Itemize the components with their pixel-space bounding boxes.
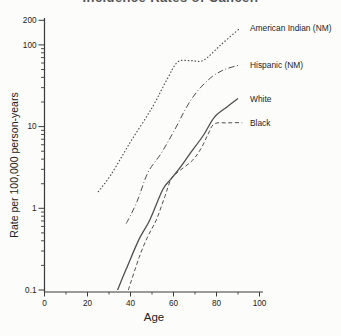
clipped-title-strip: Incidence Rates of Cancer. bbox=[0, 0, 341, 5]
y-tick-label: 0.1 bbox=[25, 286, 37, 295]
legend-label-white: White bbox=[250, 94, 272, 104]
x-axis-title: Age bbox=[144, 311, 164, 323]
series-line-american-indian-nm bbox=[98, 28, 240, 192]
series-line-hispanic-nm bbox=[126, 65, 240, 224]
y-tick-label: 200 bbox=[23, 16, 37, 25]
legend-label-hispanic-nm: Hispanic (NM) bbox=[250, 60, 303, 70]
chart-title-clipped: Incidence Rates of Cancer. bbox=[0, 0, 341, 5]
x-tick-label: 100 bbox=[253, 299, 267, 308]
x-tick-label: 20 bbox=[83, 299, 93, 308]
series-line-white bbox=[118, 99, 238, 290]
scanned-chart-page: Incidence Rates of Cancer. Rate per 100,… bbox=[0, 0, 341, 336]
x-tick-label: 0 bbox=[42, 299, 47, 308]
chart-canvas: 2001001010.1020406080100American Indian … bbox=[0, 0, 341, 336]
x-tick-label: 80 bbox=[212, 299, 222, 308]
x-tick-label: 60 bbox=[169, 299, 179, 308]
axis-lines bbox=[45, 18, 264, 292]
y-axis-title: Rate per 100,000 person-years bbox=[8, 92, 20, 237]
y-tick-label: 100 bbox=[23, 41, 37, 50]
y-tick-label: 10 bbox=[27, 122, 37, 131]
legend-label-american-indian-nm: American Indian (NM) bbox=[250, 23, 332, 33]
x-tick-label: 40 bbox=[126, 299, 136, 308]
y-tick-label: 1 bbox=[32, 204, 37, 213]
legend-label-black: Black bbox=[250, 118, 271, 128]
series-line-black bbox=[128, 123, 242, 290]
